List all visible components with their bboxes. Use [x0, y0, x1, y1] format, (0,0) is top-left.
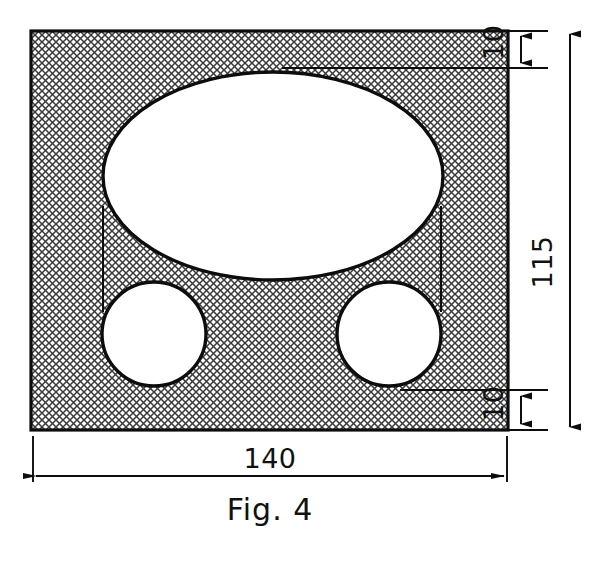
dimension-width-140: 140 [36, 443, 504, 476]
dimension-bottom-10: 10 [478, 386, 521, 424]
dimension-height-115: 115 [527, 34, 570, 427]
figure-caption: Fig. 4 [227, 492, 314, 527]
width-label: 140 [243, 443, 296, 474]
bottom-margin-label: 10 [478, 386, 509, 421]
technical-drawing-figure: 10 10 115 140 Fig. 4 [0, 0, 607, 570]
drawing-canvas: 10 10 115 140 Fig. 4 [0, 0, 607, 570]
top-margin-label: 10 [478, 25, 509, 60]
left-circle-hole [102, 282, 206, 386]
height-label: 115 [527, 235, 558, 288]
large-ellipse-hole [103, 72, 443, 280]
right-circle-hole [337, 282, 441, 386]
